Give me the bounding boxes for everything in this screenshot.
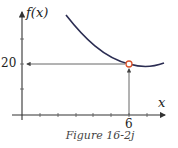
y-axis-label: f(x)	[26, 5, 48, 20]
plot-area	[0, 0, 178, 148]
function-curve	[66, 15, 164, 67]
figure-caption: Figure 16-2j	[0, 129, 178, 142]
point-marker	[126, 61, 132, 67]
figure: f(x) x 20 6 Figure 16-2j	[0, 0, 178, 148]
y-tick-label-20: 20	[1, 56, 16, 70]
x-axis-label: x	[158, 95, 165, 110]
